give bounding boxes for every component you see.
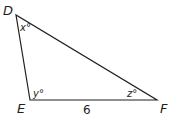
vertex-label-f: F xyxy=(160,101,168,116)
vertex-label-d: D xyxy=(3,3,13,18)
vertex-label-e: E xyxy=(17,101,26,116)
angle-label-z: z° xyxy=(126,88,137,99)
angle-label-y: y° xyxy=(32,88,44,99)
side-label-ef: 6 xyxy=(83,103,91,117)
angle-label-x: x° xyxy=(19,22,31,33)
triangle-diagram: D E F x° y° z° 6 xyxy=(0,0,178,120)
